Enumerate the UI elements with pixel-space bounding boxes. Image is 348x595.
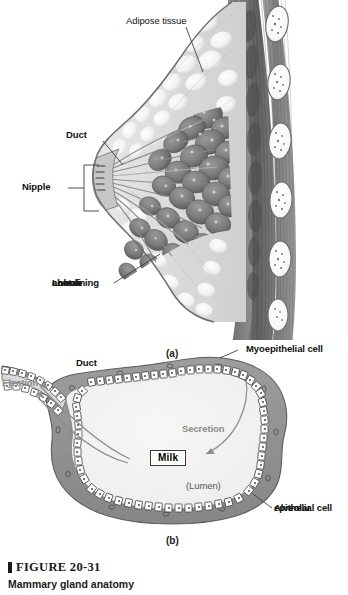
label-lumen: (Lumen): [186, 481, 221, 492]
label-alveolar-line2: epithelial cell: [274, 503, 332, 514]
caption-title: Mammary gland anatomy: [8, 578, 338, 590]
panel-a-artwork: [68, 0, 306, 344]
panel-a-tag: (a): [166, 348, 178, 359]
label-duct-a: Duct: [66, 130, 87, 141]
panel-b-tag: (b): [166, 535, 179, 546]
myoepithelial-leader: [220, 350, 238, 358]
caption-bullet-icon: [8, 562, 12, 573]
label-ejection: Ejection: [2, 378, 38, 389]
duct-neck: [1, 366, 66, 416]
panel-b-artwork: [1, 350, 286, 524]
figure-container: Adipose tissue Duct Nipple Lobule contai…: [0, 0, 348, 595]
label-adipose-tissue: Adipose tissue: [126, 16, 186, 27]
label-nipple: Nipple: [22, 182, 50, 193]
label-lobule-line3: alveoli: [52, 278, 81, 289]
label-myoepithelial-cell: Myoepithelial cell: [246, 344, 323, 355]
caption-number: FIGURE 20-31: [16, 560, 101, 575]
milk-box: Milk: [150, 450, 186, 466]
figure-caption: FIGURE 20-31 Mammary gland anatomy: [8, 560, 338, 590]
label-duct-b: Duct: [76, 358, 97, 369]
caption-number-line: FIGURE 20-31: [8, 560, 338, 575]
label-secretion: Secretion: [182, 424, 224, 435]
